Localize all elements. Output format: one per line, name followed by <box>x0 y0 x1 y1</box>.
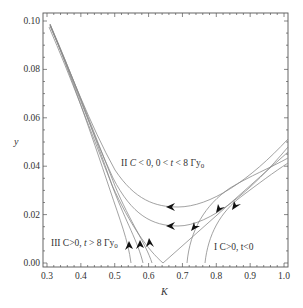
y-tick-label: 0.08 <box>23 64 40 74</box>
x-tick-label: 0.8 <box>210 271 222 281</box>
curve-separatrix <box>49 27 288 263</box>
region-i-label: I C>0, t<0 <box>214 242 254 252</box>
curve-region-iii-c <box>50 25 152 263</box>
x-tick-label: 0.9 <box>244 271 256 281</box>
plot-frame <box>43 13 288 267</box>
x-tick-label: 0.3 <box>41 271 53 281</box>
region-ii-label: II C < 0, 0 < t < 8 Γy0 <box>121 158 205 170</box>
x-tick-label: 0.5 <box>109 271 121 281</box>
trajectories <box>49 24 288 263</box>
curve-region-ii-upper <box>50 26 288 207</box>
x-tick-label: 0.6 <box>143 271 155 281</box>
y-tick-label: 0.00 <box>23 258 40 268</box>
y-axis-label: y <box>13 136 19 147</box>
arrow-down-left-icon <box>232 201 241 210</box>
y-tick-label: 0.10 <box>23 16 40 26</box>
y-tick-label: 0.02 <box>23 210 40 220</box>
phase-portrait-chart: 0.30.40.50.60.70.80.91.0 0.000.020.040.0… <box>0 0 303 308</box>
y-tick-label: 0.04 <box>23 161 40 171</box>
x-axis-label: K <box>160 286 169 297</box>
arrow-up-icon <box>146 238 154 247</box>
y-tick-label: 0.06 <box>23 113 40 123</box>
curve-region-ii-lower <box>50 25 288 226</box>
x-tick-label: 0.7 <box>177 271 189 281</box>
curve-region-iii-a <box>50 24 131 263</box>
region-iii-label: III C>0, t > 8 Γy0 <box>51 238 118 250</box>
y-axis: 0.000.020.040.060.080.10 <box>23 16 288 268</box>
x-tick-label: 1.0 <box>278 271 290 281</box>
x-tick-label: 0.4 <box>75 271 87 281</box>
arrow-up-icon <box>125 241 133 250</box>
